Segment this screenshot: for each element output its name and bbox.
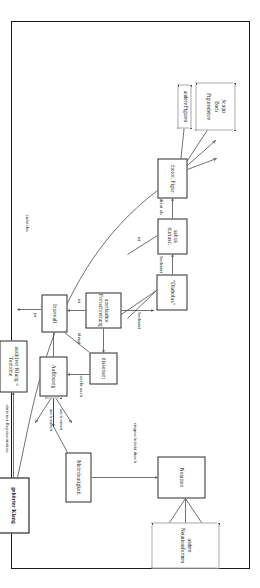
edge-label-ist-1: ist bbox=[135, 236, 141, 241]
group-figurenlehre-line-0: Schütz bbox=[219, 99, 226, 113]
node-unerlaubte-fortschreitung-label: unerlaubte Fortschreitung bbox=[97, 294, 109, 327]
diagram-page: Schütz Bach Figurenlehre andere Figuren … bbox=[0, 0, 260, 588]
edge-label-bedeutet-1: bedeutet bbox=[157, 256, 163, 273]
node-aufloesung[interactable]: Auflösung bbox=[39, 356, 67, 396]
edge-label-eingeschraenkt-durch: eingeschränkt durch bbox=[131, 422, 137, 462]
node-dissonant-label: dissonant bbox=[100, 357, 106, 378]
node-diabolus[interactable]: "Diabolus" bbox=[156, 274, 187, 310]
edge-label-klingt: klingt bbox=[75, 332, 81, 344]
group-andere-figuren: andere Figuren bbox=[177, 84, 191, 128]
node-saltus-duriusc[interactable]: saltus duriusc. bbox=[157, 218, 187, 254]
edge-label-ist-2: ist bbox=[75, 298, 81, 303]
group-andere-notationsformen-label: andere Notationsformen bbox=[178, 525, 192, 565]
node-gehoerter-klang[interactable]: gehörter Klang bbox=[0, 477, 29, 533]
node-intervall-label: Intervall bbox=[51, 303, 57, 322]
edge-label-sieht-das: sieht das bbox=[23, 214, 29, 231]
node-dissonant[interactable]: dissonant bbox=[89, 352, 117, 384]
edge-label-nach-aussen: nach außen bbox=[47, 408, 53, 431]
edge-label-dient-als: dient als bbox=[157, 198, 163, 215]
group-figurenlehre-line-1: Bach bbox=[212, 101, 219, 112]
node-unerlaubte-fortschreitung[interactable]: unerlaubte Fortschreitung bbox=[85, 292, 121, 328]
node-intervall[interactable]: Intervall bbox=[41, 294, 67, 332]
group-andere-figuren-label: andere Figuren bbox=[181, 90, 188, 121]
node-notation-label: Notation bbox=[178, 467, 184, 487]
edge-label-bedeutet-2: bedeutet bbox=[135, 312, 141, 329]
edge-label-nach-innen: nach innen bbox=[57, 408, 63, 430]
edge-label-strebt-nach: strebt nach bbox=[77, 375, 83, 397]
node-auditiver-klang-label: auditiver Klang = Tonhöhe bbox=[7, 343, 19, 389]
node-gehoerter-klang-label: gehörter Klang bbox=[10, 487, 16, 523]
group-figurenlehre-line-2: Figurenlehre bbox=[204, 93, 211, 120]
group-andere-notationsformen: andere Notationsformen bbox=[151, 522, 219, 568]
node-auditiver-klang[interactable]: auditiver Klang = Tonhöhe bbox=[0, 340, 27, 392]
node-notation[interactable]: Notation bbox=[157, 456, 205, 498]
node-rhetor-figur-label: rhetor. Figur bbox=[169, 164, 175, 192]
edge-label-ist-3: ist bbox=[31, 312, 37, 317]
node-mehrdeutigkeit[interactable]: Mehrdeutigkeit bbox=[65, 452, 91, 502]
slide-frame: Schütz Bach Figurenlehre andere Figuren … bbox=[11, 21, 250, 569]
node-mehrdeutigkeit-label: Mehrdeutigkeit bbox=[75, 460, 81, 495]
diagram-canvas: Schütz Bach Figurenlehre andere Figuren … bbox=[12, 22, 249, 568]
node-rhetor-figur[interactable]: rhetor. Figur bbox=[157, 158, 187, 198]
node-diabolus-label: "Diabolus" bbox=[168, 280, 174, 305]
node-saltus-duriusc-label: saltus duriusc. bbox=[166, 221, 178, 251]
node-aufloesung-label: Auflösung bbox=[50, 364, 56, 388]
edge-label-aktiviert-repraesentation: aktiviert Repräsentation bbox=[3, 404, 9, 452]
group-figurenlehre: Schütz Bach Figurenlehre bbox=[195, 82, 235, 130]
